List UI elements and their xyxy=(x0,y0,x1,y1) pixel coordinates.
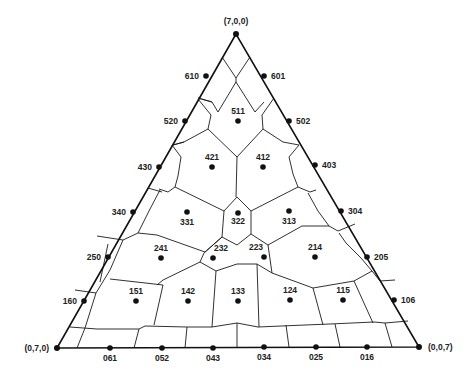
cell-edge xyxy=(200,262,216,271)
lattice-point-034 xyxy=(261,344,267,350)
cell-boundaries xyxy=(70,57,408,348)
lattice-point-025 xyxy=(313,344,319,350)
cell-edge xyxy=(310,190,316,192)
cell-edge xyxy=(216,264,237,271)
cell-edge xyxy=(385,323,392,347)
lattice-point-061 xyxy=(107,345,113,351)
lattice-point-313 xyxy=(286,208,292,214)
cell-edge xyxy=(339,233,346,243)
cell-edge xyxy=(354,271,372,281)
lattice-point-610 xyxy=(203,73,209,79)
cell-edge xyxy=(178,157,181,176)
cell-edge xyxy=(85,293,96,328)
point-label-034: 034 xyxy=(257,352,271,362)
cell-edge xyxy=(330,322,374,324)
point-label-322: 322 xyxy=(231,216,245,226)
cell-edge xyxy=(289,157,293,174)
point-label-124: 124 xyxy=(283,285,297,295)
point-label-313: 313 xyxy=(282,216,296,226)
point-label-331: 331 xyxy=(180,217,194,227)
point-label-133: 133 xyxy=(231,286,245,296)
lattice-point-331 xyxy=(184,209,190,215)
cell-edge xyxy=(222,211,224,237)
lattice-point-124 xyxy=(287,297,293,303)
cell-edge xyxy=(263,129,283,142)
point-label-421: 421 xyxy=(205,152,219,162)
cell-edge xyxy=(262,115,263,129)
cell-edge xyxy=(237,323,258,327)
cell-edge xyxy=(289,145,299,157)
point-label-043: 043 xyxy=(206,353,220,363)
ternary-voronoi-svg: (7,0,0)(0,7,0)(0,0,7)6106015205115024304… xyxy=(0,0,476,383)
cell-edge xyxy=(293,174,298,187)
point-label-115: 115 xyxy=(336,285,350,295)
cell-edge xyxy=(138,209,150,233)
cell-edge xyxy=(175,176,178,187)
point-label-520: 520 xyxy=(164,116,178,126)
cell-edge xyxy=(184,129,208,142)
corner-label-right: (0,0,7) xyxy=(428,342,453,352)
lattice-points xyxy=(54,31,422,351)
lattice-point-232 xyxy=(210,255,216,261)
cell-edge xyxy=(70,327,97,329)
cell-edge xyxy=(100,244,108,282)
cell-edge xyxy=(308,193,318,211)
cell-edge xyxy=(77,328,85,348)
cell-edge xyxy=(237,197,251,211)
point-label-403: 403 xyxy=(322,160,336,170)
cell-edge xyxy=(185,327,187,348)
cell-edge xyxy=(268,226,302,245)
cell-edge xyxy=(75,290,96,293)
cell-edge xyxy=(374,322,385,323)
cell-edge xyxy=(298,187,310,192)
lattice-point-052 xyxy=(159,345,165,351)
cell-edge xyxy=(212,102,218,112)
corner-point-top xyxy=(233,31,239,37)
lattice-point-205 xyxy=(364,254,370,260)
point-label-214: 214 xyxy=(308,242,322,252)
lattice-point-214 xyxy=(312,254,318,260)
cell-edge xyxy=(212,323,237,327)
point-label-052: 052 xyxy=(155,353,169,363)
cell-edge xyxy=(212,271,216,327)
cell-edge xyxy=(224,197,237,211)
point-label-304: 304 xyxy=(348,206,362,216)
lattice-point-430 xyxy=(156,164,162,170)
point-label-250: 250 xyxy=(87,252,101,262)
lattice-point-133 xyxy=(235,298,241,304)
cell-edge xyxy=(251,187,298,211)
cell-edge xyxy=(329,226,338,231)
cell-edge xyxy=(168,187,175,192)
cell-edge xyxy=(354,281,373,323)
cell-edge xyxy=(335,324,340,347)
cell-edge xyxy=(286,325,289,347)
cell-edge xyxy=(96,270,110,293)
point-label-412: 412 xyxy=(256,152,270,162)
point-label-601: 601 xyxy=(271,71,285,81)
cell-edge xyxy=(283,142,299,145)
cell-edge xyxy=(262,98,274,115)
point-label-061: 061 xyxy=(103,353,117,363)
cell-edge xyxy=(139,326,145,329)
corner-point-right xyxy=(416,344,422,350)
lattice-point-115 xyxy=(340,297,346,303)
cell-edge xyxy=(172,145,181,157)
cell-edge xyxy=(200,253,204,262)
lattice-point-043 xyxy=(210,345,216,351)
point-label-511: 511 xyxy=(231,106,245,116)
lattice-point-250 xyxy=(105,254,111,260)
corner-point-left xyxy=(54,345,60,351)
point-label-340: 340 xyxy=(112,207,126,217)
lattice-point-511 xyxy=(235,118,241,124)
lattice-point-601 xyxy=(261,73,267,79)
cell-edge xyxy=(305,324,330,325)
cell-edge xyxy=(138,233,157,235)
ternary-diagram: (7,0,0)(0,7,0)(0,0,7)6106015205115024304… xyxy=(0,0,476,383)
lattice-point-520 xyxy=(182,118,188,124)
point-label-106: 106 xyxy=(401,295,415,305)
cell-edge xyxy=(236,57,250,78)
point-label-142: 142 xyxy=(181,286,195,296)
cell-edge xyxy=(163,262,200,280)
cell-edge xyxy=(338,224,355,231)
lattice-point-016 xyxy=(364,344,370,350)
